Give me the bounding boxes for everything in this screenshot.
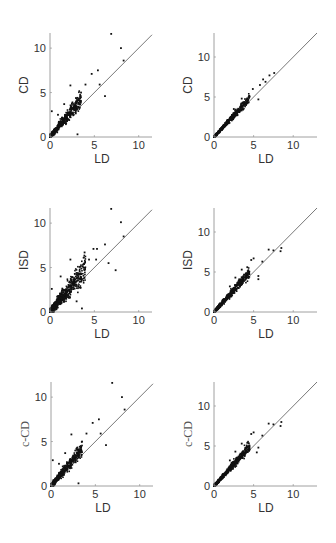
x-tick-label: 5 bbox=[251, 488, 257, 500]
y-tick-label: 0 bbox=[41, 480, 47, 492]
x-tick-label: 10 bbox=[287, 314, 299, 326]
x-tick-label: 0 bbox=[47, 139, 53, 151]
x-tick-label: 5 bbox=[251, 139, 257, 151]
y-tick-label: 0 bbox=[204, 480, 210, 492]
data-points bbox=[213, 247, 282, 313]
x-tick-label: 10 bbox=[287, 139, 299, 151]
y-tick-label: 10 bbox=[198, 226, 210, 238]
y-axis-label: CD bbox=[17, 76, 31, 94]
y-tick-label: 0 bbox=[204, 306, 210, 318]
y-tick-label: 10 bbox=[198, 51, 210, 63]
y-tick-label: 10 bbox=[35, 391, 47, 403]
y-tick-label: 5 bbox=[204, 91, 210, 103]
x-axis-label: LD bbox=[258, 327, 274, 341]
data-points bbox=[49, 208, 124, 313]
y-tick-label: 10 bbox=[34, 42, 46, 54]
x-tick-label: 10 bbox=[287, 488, 299, 500]
y-tick-label: 5 bbox=[41, 436, 47, 448]
y-tick-label: 10 bbox=[34, 217, 46, 229]
x-axis-label: LD bbox=[94, 327, 110, 341]
y-tick-label: 0 bbox=[40, 131, 46, 143]
x-tick-label: 0 bbox=[211, 314, 217, 326]
scatter-panel-p12: 05100510LDCD bbox=[181, 33, 317, 166]
scatter-panel-p22: 05100510LDISD bbox=[181, 208, 317, 341]
x-tick-label: 5 bbox=[91, 139, 97, 151]
x-tick-label: 0 bbox=[47, 314, 53, 326]
x-tick-label: 10 bbox=[134, 488, 146, 500]
x-tick-label: 5 bbox=[251, 314, 257, 326]
figure-grid: 05100510LDCD05100510LDCD05100510LDISD051… bbox=[0, 0, 336, 543]
x-axis-label: LD bbox=[258, 152, 274, 166]
y-axis-label: c-CD bbox=[181, 421, 195, 447]
data-points bbox=[213, 72, 275, 138]
y-axis-label: c-CD bbox=[18, 421, 32, 447]
y-tick-label: 5 bbox=[204, 440, 210, 452]
scatter-panel-p32: 05100510LDc-CD bbox=[181, 382, 317, 515]
y-tick-label: 5 bbox=[204, 266, 210, 278]
y-tick-label: 10 bbox=[198, 400, 210, 412]
y-tick-label: 5 bbox=[40, 262, 46, 274]
y-tick-label: 0 bbox=[204, 131, 210, 143]
x-tick-label: 0 bbox=[211, 139, 217, 151]
x-tick-label: 5 bbox=[92, 488, 98, 500]
x-axis-label: LD bbox=[95, 501, 111, 515]
data-points bbox=[49, 33, 124, 138]
data-points bbox=[213, 421, 282, 487]
x-axis-label: LD bbox=[258, 501, 274, 515]
y-tick-label: 0 bbox=[40, 306, 46, 318]
x-tick-label: 0 bbox=[211, 488, 217, 500]
y-axis-label: ISD bbox=[181, 250, 195, 270]
y-tick-label: 5 bbox=[40, 87, 46, 99]
y-axis-label: CD bbox=[181, 76, 195, 94]
x-axis-label: LD bbox=[94, 152, 110, 166]
x-tick-label: 0 bbox=[48, 488, 54, 500]
x-tick-label: 10 bbox=[133, 139, 145, 151]
y-axis-label: ISD bbox=[17, 250, 31, 270]
x-tick-label: 5 bbox=[91, 314, 97, 326]
scatter-panel-p21: 05100510LDISD bbox=[17, 208, 152, 341]
scatter-panel-p11: 05100510LDCD bbox=[17, 33, 152, 166]
scatter-panel-p31: 05100510LDc-CD bbox=[18, 382, 153, 515]
data-points bbox=[50, 382, 125, 487]
x-tick-label: 10 bbox=[133, 314, 145, 326]
